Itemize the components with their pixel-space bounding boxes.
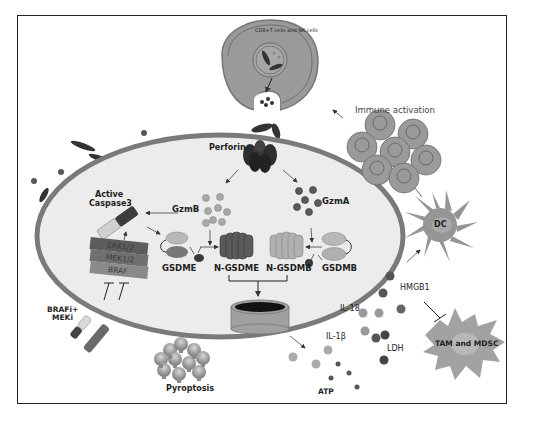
pyroptosis-label: Pyroptosis [166,385,214,393]
n-gsdmb-pore-icon [270,232,303,259]
il1b-label: IL-1β [326,333,346,341]
killer-cell-label: CD8+T cells and NK cells [255,28,318,33]
hmgb1-label: HMGB1 [400,284,430,292]
dc-label: DC [434,221,447,229]
gzmb-label: GzmB [172,205,199,214]
gzma-label: GzmA [322,197,349,206]
active-caspase3-label-line2: Caspase3 [89,200,132,208]
diagram-graphics [0,0,535,422]
diagram-canvas: CD8+T cells and NK cells Immune activati… [0,0,535,422]
meki-pill-icon [83,323,110,353]
atp-label: ATP [318,388,334,396]
gsdme-label: GSDME [162,264,196,273]
perforin-label: Perforin [209,144,246,152]
n-gsdme-pore-icon [220,232,253,259]
tam-mdsc-label: TAM and MDSC [435,340,498,348]
meki-label: MEKi [52,314,73,322]
ldh-label: LDH [387,345,404,353]
active-caspase3-label: Active [95,191,123,199]
n-gsdme-label: N-GSDME [214,264,259,273]
braf-label: BRAF [108,266,128,275]
il18-label: IL-18 [340,305,360,313]
killer-cell-icon [222,20,318,112]
gsdmb-label: GSDMB [322,264,357,273]
gasdermin-pore-icon [231,300,289,334]
immune-activation-label: Immune activation [355,106,435,115]
n-gsdmb-label: N-GSDMB [266,264,312,273]
pyroptosis-blebs-icon [154,337,210,383]
